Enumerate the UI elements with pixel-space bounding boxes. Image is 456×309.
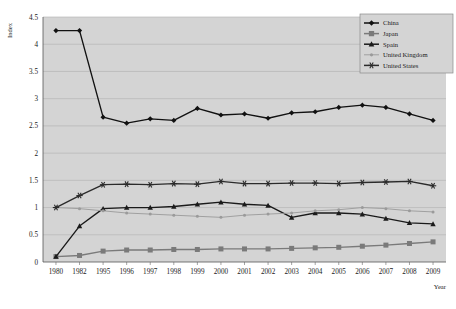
- marker-dot: [432, 210, 435, 213]
- marker-dot: [314, 209, 317, 212]
- legend-label: China: [383, 19, 399, 26]
- marker-dot: [196, 215, 199, 218]
- x-tick-label: 2001: [237, 268, 252, 276]
- y-tick-label: 2.5: [29, 122, 38, 130]
- x-tick-label: 2006: [355, 268, 370, 276]
- legend-label: Japan: [383, 30, 399, 37]
- marker-square: [383, 243, 388, 248]
- x-tick-label: 1995: [96, 268, 111, 276]
- x-tick-label: 1998: [167, 268, 182, 276]
- marker-dot: [102, 209, 105, 212]
- marker-square: [77, 253, 82, 258]
- marker-dot: [149, 213, 152, 216]
- x-tick-label: 1982: [72, 268, 87, 276]
- legend-label: United States: [383, 62, 419, 69]
- marker-square: [431, 239, 436, 244]
- y-tick-label: 0.5: [29, 231, 38, 239]
- y-tick-label: 3: [34, 95, 38, 103]
- x-tick-label: 1996: [119, 268, 134, 276]
- marker-dot: [78, 207, 81, 210]
- marker-dot: [361, 206, 364, 209]
- marker-square: [124, 248, 129, 253]
- y-axis-ticks: 00.511.522.533.544.5: [29, 14, 38, 267]
- marker-dot: [384, 207, 387, 210]
- x-tick-label: 2002: [261, 268, 276, 276]
- y-tick-label: 1: [34, 204, 38, 212]
- x-tick-label: 2000: [214, 268, 229, 276]
- marker-dot: [125, 212, 128, 215]
- marker-square: [195, 247, 200, 252]
- y-axis-title: Index: [6, 22, 13, 38]
- chart-container: 00.511.522.533.544.519801982199519961997…: [0, 0, 456, 309]
- x-tick-label: 2005: [332, 268, 347, 276]
- marker-square: [242, 246, 247, 251]
- x-tick-label: 2009: [426, 268, 441, 276]
- marker-square: [360, 244, 365, 249]
- marker-square: [218, 246, 223, 251]
- marker-dot: [172, 214, 175, 217]
- marker-square: [266, 246, 271, 251]
- marker-dot: [219, 216, 222, 219]
- marker-square: [336, 245, 341, 250]
- marker-dot: [370, 53, 373, 56]
- legend-label: United Kingdom: [383, 51, 428, 58]
- legend: ChinaJapanSpainUnited KingdomUnited Stat…: [360, 14, 453, 73]
- x-tick-label: 2008: [402, 268, 417, 276]
- marker-dot: [337, 208, 340, 211]
- x-tick-label: 2003: [284, 268, 299, 276]
- marker-square: [101, 249, 106, 254]
- y-tick-label: 4: [34, 41, 38, 49]
- x-tick-label: 2004: [308, 268, 323, 276]
- marker-square: [148, 248, 153, 253]
- x-tick-label: 1999: [190, 268, 205, 276]
- line-chart: 00.511.522.533.544.519801982199519961997…: [0, 0, 456, 309]
- marker-square: [289, 246, 294, 251]
- x-tick-label: 2007: [379, 268, 394, 276]
- x-axis-title: Year: [434, 283, 447, 290]
- x-tick-label: 1980: [49, 268, 64, 276]
- legend-label: Spain: [383, 41, 399, 48]
- y-tick-label: 2: [34, 150, 38, 158]
- marker-dot: [408, 209, 411, 212]
- marker-square: [171, 247, 176, 252]
- x-tick-label: 1997: [143, 268, 158, 276]
- y-tick-label: 4.5: [29, 14, 38, 22]
- marker-square: [313, 245, 318, 250]
- marker-dot: [290, 212, 293, 215]
- marker-square: [369, 31, 374, 36]
- y-tick-label: 0: [34, 259, 38, 267]
- marker-dot: [267, 213, 270, 216]
- x-axis-ticks: 1980198219951996199719981999200020012002…: [49, 262, 441, 276]
- marker-square: [407, 241, 412, 246]
- marker-dot: [243, 214, 246, 217]
- y-tick-label: 3.5: [29, 68, 38, 76]
- y-tick-label: 1.5: [29, 177, 38, 185]
